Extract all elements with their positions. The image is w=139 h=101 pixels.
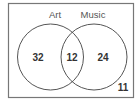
outside-value: 11 (118, 82, 129, 93)
art-label: Art (49, 9, 62, 20)
art-only-value: 32 (32, 52, 44, 63)
intersection-value: 12 (66, 52, 78, 63)
venn-diagram: Art Music 32 12 24 11 (0, 0, 139, 101)
music-label: Music (81, 9, 106, 20)
music-only-value: 24 (97, 52, 109, 63)
